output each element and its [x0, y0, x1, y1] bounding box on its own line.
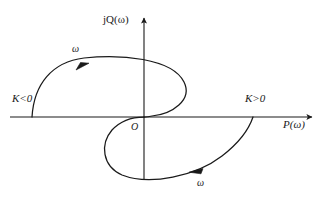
curve-k-negative	[32, 57, 186, 117]
nyquist-plot-canvas	[0, 0, 323, 202]
omega-direction-arrow-lower	[189, 169, 203, 174]
omega-label-upper: ω	[72, 44, 79, 54]
k-positive-label: K>0	[245, 93, 265, 104]
curve-k-positive	[105, 117, 253, 180]
imaginary-axis-label: jQ(ω)	[103, 14, 129, 25]
omega-label-lower: ω	[197, 178, 204, 188]
omega-direction-arrow-upper	[76, 63, 89, 71]
k-negative-label: K<0	[12, 93, 32, 104]
real-axis-label: P(ω)	[283, 119, 305, 130]
origin-label: O	[131, 122, 138, 132]
nyquist-plot-figure: jQ(ω) P(ω) O K<0 K>0 ω ω	[0, 0, 323, 202]
